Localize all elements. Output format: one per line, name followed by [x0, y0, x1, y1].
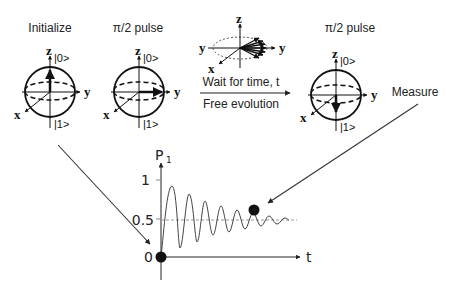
- x-axis-label: x: [208, 61, 215, 76]
- y-axis-label: y: [371, 87, 378, 102]
- ket-1-label: |1>: [54, 118, 69, 130]
- z-axis-label: z: [135, 43, 141, 58]
- ytick-0: 0: [144, 249, 153, 265]
- x-axis-label: t: [306, 249, 312, 265]
- x-axis-label: x: [103, 107, 110, 122]
- z-axis-label: z: [236, 11, 242, 26]
- wait-label: Wait for time, t: [203, 75, 281, 89]
- ramsey-diagram: Initialize π/2 pulse π/2 pulse Measure z…: [0, 0, 454, 292]
- measure-marker: [249, 205, 260, 216]
- bloch-sphere-pulse1: z y x |0> |1>: [103, 43, 181, 130]
- x-axis-label: x: [14, 107, 21, 122]
- ket-1-label: |1>: [340, 121, 355, 133]
- y-axis-label: y: [174, 84, 181, 99]
- initialize-pointer-arrow: [58, 145, 150, 244]
- z-axis-label: z: [332, 46, 338, 61]
- bloch-sphere-pulse2: z y x |0> |1>: [300, 46, 378, 133]
- ket-0-label: |0>: [340, 55, 355, 67]
- ket-0-label: |0>: [54, 52, 69, 64]
- step-initialize-label: Initialize: [28, 21, 72, 35]
- z-axis-label: z: [46, 43, 52, 58]
- step-measure-label: Measure: [392, 85, 439, 99]
- ket-1-label: |1>: [143, 118, 158, 130]
- free-evolution-label: Free evolution: [203, 97, 279, 111]
- y-axis-label: y: [84, 84, 91, 99]
- y-axis-label: P: [155, 147, 163, 163]
- ytick-1: 1: [141, 172, 150, 188]
- ytick-0.5: 0.5: [132, 212, 154, 228]
- start-marker: [156, 252, 167, 263]
- ket-0-label: |0>: [143, 52, 158, 64]
- step-pulse2-label: π/2 pulse: [325, 21, 376, 35]
- diagram-canvas: Initialize π/2 pulse π/2 pulse Measure z…: [0, 0, 454, 292]
- p1-oscillation-curve: [161, 186, 289, 257]
- y-axis-label-subscript: 1: [166, 155, 172, 165]
- p1-chart: 1 0.5 0 P 1 t: [132, 147, 312, 280]
- y-axis-label: y: [279, 40, 286, 55]
- x-axis-label: x: [300, 110, 307, 125]
- free-evolution-diagram: z y y x: [199, 11, 286, 76]
- step-pulse1-label: π/2 pulse: [113, 21, 164, 35]
- neg-y-axis-label: y: [199, 40, 206, 55]
- bloch-sphere-initialize: z y x |0> |1>: [14, 43, 91, 130]
